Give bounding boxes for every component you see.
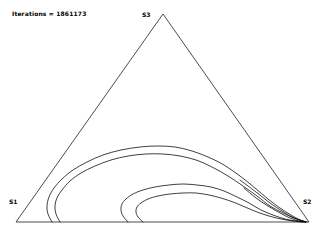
vertex-label-s3: S3 [142, 11, 151, 19]
plot-canvas [0, 0, 325, 237]
iterations-label: Iterations = 1861173 [12, 10, 87, 18]
vertex-label-s1: S1 [9, 198, 18, 206]
plot-background [0, 0, 325, 237]
vertex-label-s2: S2 [303, 198, 312, 206]
ternary-simplex-plot: Iterations = 1861173 S1 S2 S3 [0, 0, 325, 237]
